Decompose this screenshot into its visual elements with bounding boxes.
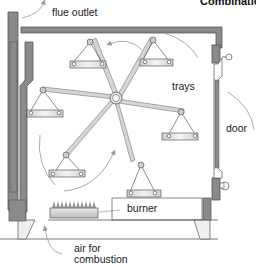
label-trays: trays	[172, 80, 195, 92]
oven-left-wall	[10, 42, 33, 212]
oven-base	[0, 198, 218, 239]
reel-oven-diagram	[0, 0, 256, 264]
label-flue-outlet: flue outlet	[52, 6, 98, 18]
tray-4	[162, 109, 198, 140]
trays	[27, 37, 198, 197]
oven-top-wall	[21, 27, 222, 48]
label-burner: burner	[127, 202, 157, 214]
label-door: door	[226, 122, 247, 134]
rotating-reel	[43, 38, 184, 162]
tray-5	[49, 152, 85, 177]
flow-arrows	[22, 2, 198, 254]
diagram-title: Combination	[200, 0, 256, 7]
label-air-line2: combustion	[74, 253, 128, 264]
tray-6	[127, 162, 161, 197]
burner	[50, 201, 120, 218]
